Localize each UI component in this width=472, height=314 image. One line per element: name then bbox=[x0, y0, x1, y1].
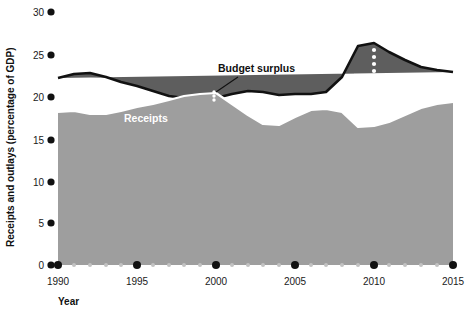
y-tick-label-0: 0 bbox=[38, 260, 44, 271]
y-tick-label-5: 5 bbox=[38, 218, 44, 229]
x-tick-dot-2012 bbox=[403, 263, 407, 267]
x-tick-dot-2009 bbox=[356, 263, 360, 267]
x-tick-dot-1999 bbox=[198, 263, 202, 267]
x-tick-label-2005: 2005 bbox=[284, 276, 307, 287]
y-tick-label-30: 30 bbox=[33, 7, 45, 18]
x-tick-dot-2010 bbox=[370, 261, 378, 269]
series-label-receipts: Receipts bbox=[124, 112, 168, 124]
x-tick-dot-2004 bbox=[277, 263, 281, 267]
x-tick-dot-1990 bbox=[54, 261, 62, 269]
x-tick-dot-2001 bbox=[230, 263, 234, 267]
y-axis-title: Receipts and outlays (percentage of GDP) bbox=[5, 48, 16, 248]
x-tick-dot-2002 bbox=[246, 263, 250, 267]
x-tick-dot-1997 bbox=[167, 263, 171, 267]
x-tick-dot-1992 bbox=[88, 263, 92, 267]
x-tick-dot-1994 bbox=[119, 263, 123, 267]
x-tick-dot-2013 bbox=[419, 263, 423, 267]
y-tick-dot-5 bbox=[47, 219, 54, 226]
x-tick-label-2015: 2015 bbox=[442, 276, 465, 287]
x-axis-title: Year bbox=[58, 296, 79, 307]
x-tick-dot-2005 bbox=[291, 261, 299, 269]
x-tick-dot-2015 bbox=[449, 261, 457, 269]
x-tick-dot-1996 bbox=[151, 263, 155, 267]
x-tick-label-1995: 1995 bbox=[126, 276, 149, 287]
y-tick-label-20: 20 bbox=[33, 92, 45, 103]
chart-container: 30 25 20 15 10 5 0 Receipts and outlays … bbox=[0, 0, 472, 314]
series-label-outlays: Outlays bbox=[130, 62, 169, 74]
y-tick-dot-0 bbox=[47, 261, 54, 268]
x-tick-label-2000: 2000 bbox=[205, 276, 228, 287]
x-tick-dot-1998 bbox=[182, 263, 186, 267]
x-tick-label-1990: 1990 bbox=[47, 276, 70, 287]
x-tick-dot-2003 bbox=[261, 263, 265, 267]
x-tick-dot-2011 bbox=[387, 263, 391, 267]
budget-deficit-label: Budget deficit bbox=[382, 82, 453, 94]
y-tick-dot-15 bbox=[47, 136, 54, 143]
receipts-outlays-area-chart: 30 25 20 15 10 5 0 Receipts and outlays … bbox=[0, 0, 472, 314]
budget-surplus-label: Budget surplus bbox=[218, 62, 295, 74]
y-tick-dot-20 bbox=[47, 93, 54, 100]
x-tick-dot-2008 bbox=[340, 263, 344, 267]
x-tick-dot-1993 bbox=[104, 263, 108, 267]
y-tick-dot-10 bbox=[47, 178, 54, 185]
budget-surplus-dotted-marker bbox=[212, 90, 215, 101]
y-tick-label-25: 25 bbox=[33, 50, 45, 61]
x-tick-label-2010: 2010 bbox=[363, 276, 386, 287]
y-tick-dot-25 bbox=[47, 51, 54, 58]
y-tick-label-10: 10 bbox=[33, 177, 45, 188]
x-tick-dot-1991 bbox=[72, 263, 76, 267]
x-tick-dot-1995 bbox=[133, 261, 141, 269]
x-tick-dot-2006 bbox=[309, 263, 313, 267]
x-tick-dot-2014 bbox=[435, 263, 439, 267]
y-tick-label-15: 15 bbox=[33, 135, 45, 146]
y-tick-dot-30 bbox=[47, 8, 54, 15]
x-tick-dot-2007 bbox=[324, 263, 328, 267]
x-tick-dot-2000 bbox=[212, 261, 220, 269]
